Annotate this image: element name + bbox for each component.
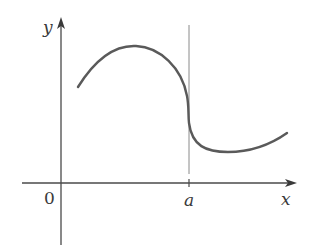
y-axis-label: y [42, 17, 53, 37]
origin-label: 0 [44, 188, 55, 208]
x-axis-label: x [281, 189, 291, 209]
function-curve [78, 46, 287, 152]
marker-label-a: a [184, 190, 194, 210]
function-graph: y 0 a x [0, 0, 309, 252]
